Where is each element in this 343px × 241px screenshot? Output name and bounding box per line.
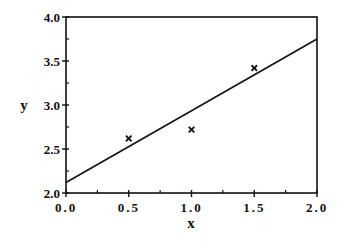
x-axis-label: x [187,215,195,231]
y-tick-label: 4.0 [44,10,60,25]
x-marker-icon [189,127,195,133]
x-tick-label: 0.5 [118,200,140,215]
scatter-chart: 2.02.53.03.54.0 0.00.51.01.52.0 x y [0,0,343,241]
x-marker-icon [126,136,132,142]
y-tick-label: 2.0 [44,186,60,201]
x-marker-icon [251,65,257,71]
y-tick-label: 3.5 [44,54,61,69]
x-tick-label: 0.0 [55,200,77,215]
y-tick-label: 2.5 [44,142,61,157]
plot-frame [66,17,317,193]
x-tick-label: 1.0 [180,200,202,215]
y-axis-label: y [20,97,28,113]
x-tick-label: 2.0 [306,200,328,215]
data-markers [126,65,257,141]
x-tick-label: 1.5 [243,200,265,215]
y-tick-label: 3.0 [44,98,60,113]
fitted-line [66,39,317,182]
